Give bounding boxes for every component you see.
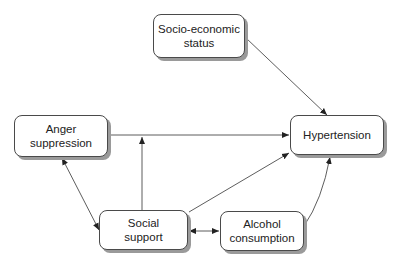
node-label-line2: status bbox=[158, 36, 240, 50]
edge-alcohol-hypertension bbox=[304, 157, 330, 226]
node-social-support: Social support bbox=[99, 210, 188, 250]
node-label-line2: consumption bbox=[229, 231, 294, 245]
node-label-line1: Socio-economic bbox=[158, 22, 240, 36]
edge-anger-social bbox=[62, 158, 99, 230]
node-hypertension: Hypertension bbox=[290, 115, 384, 155]
edge-social-hypertension bbox=[189, 153, 289, 212]
node-anger-suppression: Anger suppression bbox=[14, 115, 108, 157]
node-socio-economic-status: Socio-economic status bbox=[153, 14, 245, 58]
node-label-line2: suppression bbox=[30, 136, 92, 150]
edge-ses-hypertension bbox=[246, 38, 327, 115]
node-label-line2: support bbox=[124, 230, 162, 244]
node-label-line1: Alcohol bbox=[229, 217, 294, 231]
node-label-line1: Hypertension bbox=[303, 128, 371, 142]
node-label-line1: Anger bbox=[30, 122, 92, 136]
node-label-line1: Social bbox=[124, 216, 162, 230]
node-alcohol-consumption: Alcohol consumption bbox=[220, 211, 304, 251]
